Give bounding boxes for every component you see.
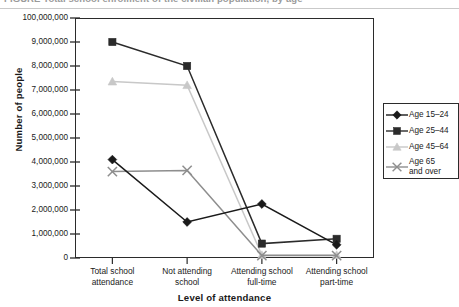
y-tick-label: 1,000,000 [0,229,68,238]
x-axis-title: Level of attendance [75,292,374,303]
y-tick-label: 0 [0,253,68,262]
legend-marker-square-icon [385,124,409,138]
legend-item[interactable]: Age 65 and over [384,155,458,178]
legend-label: Age 65 and over [409,157,441,176]
legend-label: Age 45–64 [409,142,449,151]
x-tick-label: Attending schoolpart-time [293,266,381,288]
chart-legend: Age 15–24Age 25–44Age 45–64Age 65 and ov… [383,103,459,179]
y-tick-label: 9,000,000 [0,37,68,46]
y-tick-label: 2,000,000 [0,205,68,214]
legend-label: Age 25–44 [409,126,449,135]
legend-item[interactable]: Age 25–44 [384,123,458,139]
legend-marker-x-icon [385,160,409,174]
chart-figure: FIGURE Total school enrolment of the civ… [0,0,459,307]
y-tick-label: 8,000,000 [0,61,68,70]
y-tick-label: 7,000,000 [0,85,68,94]
legend-marker-triangle-icon [385,140,409,154]
legend-label: Age 15–24 [409,110,449,119]
y-tick-label: 3,000,000 [0,181,68,190]
y-tick-label: 6,000,000 [0,109,68,118]
legend-item[interactable]: Age 45–64 [384,139,458,155]
y-tick-label: 100,000,000 [0,13,68,22]
y-axis-title: Number of people [13,50,24,170]
legend-marker-diamond-icon [385,108,409,122]
legend-item[interactable]: Age 15–24 [384,107,458,123]
y-tick-label: 5,000,000 [0,133,68,142]
y-tick-label: 4,000,000 [0,157,68,166]
